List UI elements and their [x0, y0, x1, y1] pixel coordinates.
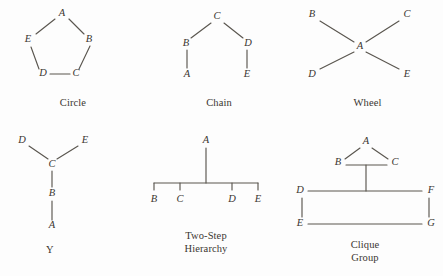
- circle-graph: A B C D E: [0, 0, 146, 92]
- edge-c-d: [224, 23, 243, 38]
- edge-e-a: [36, 19, 55, 34]
- edge-a-d: [320, 52, 354, 69]
- node-label-e: E: [254, 193, 262, 204]
- node-label-g: G: [427, 217, 435, 228]
- hierarchy-edges: [154, 148, 258, 190]
- node-label-d: D: [243, 37, 252, 48]
- edge-a-e: [366, 52, 399, 69]
- node-label-a: A: [48, 219, 56, 230]
- diagram-clique-group: A B C D F E G Clique Group: [292, 132, 443, 276]
- caption-two-step-hierarchy: Two-Step Hierarchy: [140, 230, 272, 255]
- node-label-a: A: [356, 40, 364, 51]
- diagram-y: A B C D E Y: [0, 132, 140, 276]
- node-label-a: A: [362, 135, 370, 146]
- node-label-e: E: [296, 217, 304, 228]
- edge-a-b: [320, 21, 354, 42]
- node-label-e: E: [24, 33, 32, 44]
- node-label-d: D: [17, 134, 26, 145]
- two-step-hierarchy-graph: A B C D E: [140, 132, 292, 214]
- node-label-e: E: [81, 134, 89, 145]
- node-label-d: D: [295, 184, 304, 195]
- clique-group-graph: A B C D F E G: [292, 132, 443, 236]
- node-label-b: B: [183, 37, 190, 48]
- network-structures-figure: A B C D E Circle A B C D E Chain: [0, 0, 443, 276]
- node-label-b: B: [335, 156, 342, 167]
- node-label-a: A: [202, 134, 210, 145]
- node-label-c: C: [72, 67, 80, 78]
- node-label-d: D: [38, 67, 47, 78]
- node-label-a: A: [58, 7, 66, 18]
- edge-c-e: [57, 146, 78, 159]
- node-label-c: C: [391, 156, 399, 167]
- caption-clique-group: Clique Group: [292, 239, 438, 264]
- diagram-two-step-hierarchy: A B C D E Two-Step Hierarchy: [140, 132, 292, 276]
- chain-edges: [187, 23, 247, 68]
- edge-c-d: [29, 146, 48, 159]
- chain-graph: A B C D E: [146, 0, 292, 92]
- node-label-a: A: [183, 68, 191, 79]
- edge-a-b: [69, 19, 84, 34]
- caption-chain: Chain: [146, 97, 292, 110]
- node-label-b: B: [309, 8, 316, 19]
- edge-a-c: [372, 148, 388, 159]
- node-label-c: C: [213, 10, 221, 21]
- edge-b-c: [191, 23, 211, 38]
- y-graph: A B C D E: [0, 132, 140, 242]
- circle-edges: [31, 19, 90, 74]
- caption-wheel: Wheel: [292, 97, 443, 110]
- caption-y: Y: [0, 244, 54, 257]
- edge-a-b: [345, 148, 360, 159]
- node-label-c: C: [48, 158, 56, 169]
- node-label-f: F: [427, 184, 435, 195]
- node-label-e: E: [243, 68, 251, 79]
- edge-b-c: [79, 46, 90, 69]
- diagram-chain: A B C D E Chain: [146, 0, 292, 128]
- diagram-wheel: A B C D E Wheel: [292, 0, 443, 128]
- node-label-d: D: [227, 193, 236, 204]
- clique-edges: [302, 148, 429, 224]
- node-label-b: B: [151, 193, 158, 204]
- diagram-circle: A B C D E Circle: [0, 0, 146, 128]
- node-label-e: E: [403, 68, 411, 79]
- node-label-c: C: [176, 193, 184, 204]
- wheel-graph: A B C D E: [292, 0, 443, 92]
- caption-circle: Circle: [0, 97, 146, 110]
- node-label-c: C: [403, 8, 411, 19]
- node-label-b: B: [86, 33, 93, 44]
- node-label-b: B: [49, 187, 56, 198]
- y-edges: [29, 146, 78, 220]
- node-label-d: D: [307, 68, 316, 79]
- edge-d-e: [31, 47, 39, 69]
- edge-a-c: [366, 21, 399, 42]
